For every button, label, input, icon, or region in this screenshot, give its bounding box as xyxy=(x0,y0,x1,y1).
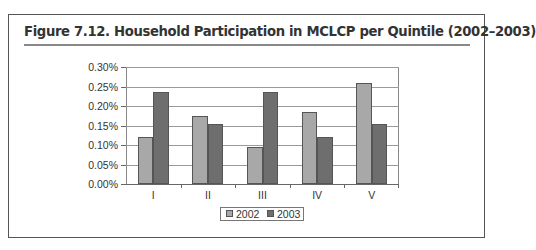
x-tick-label: III xyxy=(243,189,283,201)
y-tick-label: 0.05% xyxy=(72,159,118,171)
bar-2002-III xyxy=(247,147,263,184)
bar-2002-I xyxy=(138,137,154,184)
y-tick-label: 0.10% xyxy=(72,139,118,151)
bar-2003-III xyxy=(263,92,279,184)
y-tick-mark xyxy=(121,106,126,107)
x-tick-label: V xyxy=(352,189,392,201)
bar-2003-IV xyxy=(317,137,333,184)
y-tick-label: 0.15% xyxy=(72,120,118,132)
x-tick-label: IV xyxy=(297,189,337,201)
legend-swatch-2002 xyxy=(226,210,233,217)
bar-2002-V xyxy=(356,83,372,184)
x-tick-mark xyxy=(235,184,236,188)
legend-label-2003: 2003 xyxy=(277,209,300,220)
y-tick-mark xyxy=(121,126,126,127)
bar-2003-V xyxy=(372,124,388,184)
bar-2002-IV xyxy=(302,112,318,184)
gridline xyxy=(126,67,399,68)
y-tick-label: 0.30% xyxy=(72,61,118,73)
title-rule xyxy=(24,44,470,46)
y-tick-mark xyxy=(121,87,126,88)
chart-legend: 2002 2003 xyxy=(220,207,304,221)
x-tick-mark xyxy=(181,184,182,188)
x-axis-line xyxy=(122,184,399,185)
x-tick-label: II xyxy=(188,189,228,201)
y-tick-mark xyxy=(121,165,126,166)
x-tick-label: I xyxy=(133,189,173,201)
bar-2003-II xyxy=(208,124,224,184)
y-tick-mark xyxy=(121,67,126,68)
x-tick-mark xyxy=(290,184,291,188)
x-tick-mark xyxy=(398,184,399,188)
legend-swatch-2003 xyxy=(267,210,274,217)
x-tick-mark xyxy=(344,184,345,188)
bar-2003-I xyxy=(153,92,169,184)
legend-label-2002: 2002 xyxy=(236,209,259,220)
y-tick-mark xyxy=(121,145,126,146)
figure-title: Figure 7.12. Household Participation in … xyxy=(24,24,536,39)
bar-2002-II xyxy=(192,116,208,184)
y-tick-label: 0.25% xyxy=(72,81,118,93)
y-tick-label: 0.20% xyxy=(72,100,118,112)
y-tick-label: 0.00% xyxy=(72,178,118,190)
